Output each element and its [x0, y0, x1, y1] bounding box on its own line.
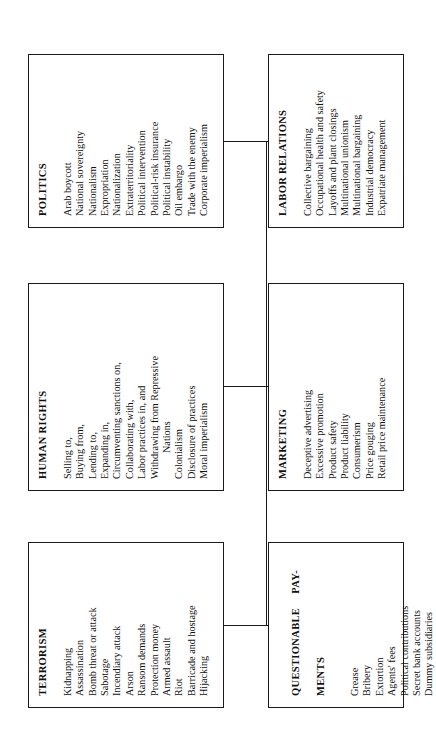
node-questionable-payments[interactable]: QUESTIONABLE PAY- MENTS Grease Bribery E…: [268, 542, 404, 708]
list-item: Extraterritoriality: [124, 65, 136, 216]
node-marketing-title: MARKETING: [277, 294, 290, 479]
node-questionable-payments-list: Grease Bribery Extortion Agents' fees Po…: [349, 553, 436, 696]
list-item: Multinational unionism: [339, 65, 351, 216]
list-item: Hijacking: [198, 553, 210, 696]
list-item: Price gouging: [364, 294, 376, 479]
list-item: Collective bargaining: [302, 65, 314, 216]
node-labor-relations-title: LABOR RELATIONS: [277, 65, 290, 216]
list-item: Deceptive advertising: [302, 294, 314, 479]
list-item: Buying from,: [74, 294, 86, 479]
list-item: Excessive promotion: [314, 294, 326, 479]
list-item: Secret bank accounts: [411, 553, 423, 696]
list-item: Multinational bargaining: [351, 65, 363, 216]
list-item: Product safety: [327, 294, 339, 479]
list-item: Extortion: [374, 553, 386, 696]
node-questionable-payments-title-part3: MENTS: [315, 553, 328, 696]
list-item: Labor practices in, and: [136, 294, 148, 479]
list-item: Expanding in,: [99, 294, 111, 479]
list-item: Political instability: [161, 65, 173, 216]
list-item: Political contributions: [399, 553, 411, 696]
node-politics[interactable]: POLITICS Arab boycott National sovereign…: [28, 54, 224, 228]
connector-politics-to-labor-relations: [224, 141, 268, 142]
list-item: Disclosure of practices: [186, 294, 198, 479]
list-item: Occupational health and safety: [314, 65, 326, 216]
node-politics-title: POLITICS: [37, 65, 50, 216]
list-item: Retail price maintenance: [376, 294, 388, 479]
node-questionable-payments-title-part2: PAY-: [290, 570, 303, 594]
node-questionable-payments-title: QUESTIONABLE PAY- MENTS: [277, 553, 341, 696]
node-terrorism[interactable]: TERRORISM Kidnapping Assassination Bomb …: [28, 542, 224, 708]
list-item: Barricade and hostage: [186, 553, 198, 696]
list-item: Sabotage: [99, 553, 111, 696]
list-item: Collaborating with,: [124, 294, 136, 479]
node-labor-relations-list: Collective bargaining Occupational healt…: [302, 65, 389, 216]
list-item: Oil embargo: [173, 65, 185, 216]
list-item: Assassination: [74, 553, 86, 696]
list-item: Armed assault: [161, 553, 173, 696]
list-item: Arab boycott: [62, 65, 74, 216]
list-item: National sovereignty: [74, 65, 86, 216]
list-item: Corporate imperialism: [198, 65, 210, 216]
list-item: Political intervention: [136, 65, 148, 216]
list-item: Selling to,: [62, 294, 74, 479]
node-terrorism-title: TERRORISM: [37, 553, 50, 696]
node-marketing[interactable]: MARKETING Deceptive advertising Excessiv…: [268, 283, 404, 491]
list-item: Consumerism: [351, 294, 363, 479]
connector-human-rights-to-marketing: [224, 386, 268, 387]
list-item: Industrial democracy: [364, 65, 376, 216]
list-item: Ransom demands: [136, 553, 148, 696]
list-item: Bribery: [361, 553, 373, 696]
list-item: Nationalization: [111, 65, 123, 216]
list-item: Colonialism: [173, 294, 185, 479]
list-item: Protection money: [149, 553, 161, 696]
node-human-rights-list: Selling to, Buying from, Lending to, Exp…: [62, 294, 211, 479]
list-item: Layoffs and plant closings: [327, 65, 339, 216]
list-item: Trade with the enemy: [186, 65, 198, 216]
node-human-rights-title: HUMAN RIGHTS: [37, 294, 50, 479]
list-item: Withdrawing from Repressive: [149, 294, 161, 479]
node-marketing-list: Deceptive advertising Excessive promotio…: [302, 294, 389, 479]
list-item: Expropriation: [99, 65, 111, 216]
node-human-rights[interactable]: HUMAN RIGHTS Selling to, Buying from, Le…: [28, 283, 224, 491]
list-item: Nationalism: [87, 65, 99, 216]
node-labor-relations[interactable]: LABOR RELATIONS Collective bargaining Oc…: [268, 54, 404, 228]
list-item: Incendiary attack: [111, 553, 123, 696]
connector-terrorism-to-questionable-payments: [224, 625, 268, 626]
list-item: Nations: [161, 294, 173, 479]
list-item: Agents' fees: [386, 553, 398, 696]
list-item: Lending to,: [87, 294, 99, 479]
list-item: Expatriate management: [376, 65, 388, 216]
list-item: Dummy subsidiaries: [423, 553, 435, 696]
list-item: Kidnapping: [62, 553, 74, 696]
list-item: Moral imperialism: [198, 294, 210, 479]
list-item: Bomb threat or attack: [87, 553, 99, 696]
node-politics-list: Arab boycott National sovereignty Nation…: [62, 65, 211, 216]
list-item: Riot: [173, 553, 185, 696]
list-item: Arson: [124, 553, 136, 696]
list-item: Circumventing sanctions on,: [111, 294, 123, 479]
list-item: Grease: [349, 553, 361, 696]
list-item: Political-risk insurance: [149, 65, 161, 216]
node-questionable-payments-title-part1: QUESTIONABLE: [290, 608, 303, 696]
node-terrorism-list: Kidnapping Assassination Bomb threat or …: [62, 553, 211, 696]
list-item: Product liability: [339, 294, 351, 479]
